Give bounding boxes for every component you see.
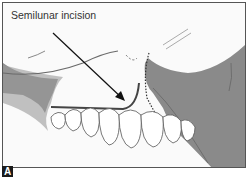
right-bone: [145, 43, 246, 168]
incision-label: Semilunar incision: [11, 9, 96, 21]
dental-illustration: [3, 3, 246, 168]
semilunar-incision-line: [51, 83, 139, 109]
panel-letter: A: [2, 166, 13, 177]
illustration-frame: Semilunar incision: [2, 2, 246, 168]
pointer-arrow: [53, 33, 123, 99]
